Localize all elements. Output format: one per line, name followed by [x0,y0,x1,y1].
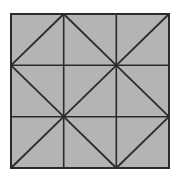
grid-diagram [0,0,177,186]
